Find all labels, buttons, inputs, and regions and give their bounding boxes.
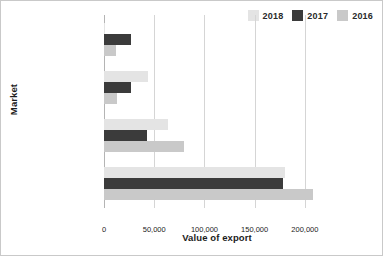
bar [104, 178, 283, 189]
bar-chart: Market Value of export 201820172016 050,… [0, 0, 383, 256]
gridline-200000 [305, 15, 306, 208]
x-tick-label: 50,000 [143, 225, 166, 234]
bar [104, 141, 184, 152]
bar [104, 119, 168, 130]
bar [104, 45, 116, 56]
bar [104, 71, 148, 82]
legend-swatch-icon [337, 10, 348, 21]
bar [104, 23, 105, 34]
x-tick-label: 150,000 [241, 225, 268, 234]
x-tick-label: 0 [102, 225, 106, 234]
bar [104, 130, 147, 141]
x-tick-label: 100,000 [191, 225, 218, 234]
bar [104, 189, 313, 200]
x-tick-label: 200,000 [291, 225, 318, 234]
bar [104, 167, 285, 178]
legend-item-2016[interactable]: 2016 [337, 10, 373, 21]
y-axis-title: Market [8, 70, 19, 130]
legend-label: 2016 [352, 11, 373, 21]
plot-area: 050,000100,000150,000200,000 [104, 15, 330, 208]
bar [104, 34, 131, 45]
bar [104, 82, 131, 93]
bar [104, 93, 117, 104]
